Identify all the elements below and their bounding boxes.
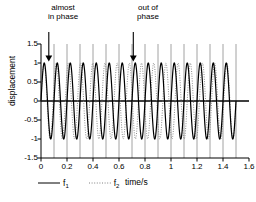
beats-waveform-figure: almost in phase out of phase 1.5 1 0.5 0… bbox=[0, 0, 256, 202]
annotation-arrows bbox=[45, 32, 136, 62]
axis-ticks bbox=[38, 44, 250, 162]
plot-canvas bbox=[0, 0, 256, 202]
